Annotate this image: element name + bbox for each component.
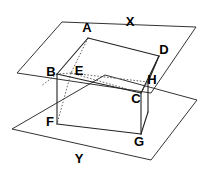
hidden-edge-ef: [57, 73, 71, 124]
edge-b-c: [57, 74, 141, 93]
figure-canvas: A B C D E F G H X Y: [0, 0, 209, 171]
hidden-edge-eb: [57, 73, 71, 74]
vertex-label-b: B: [46, 64, 55, 79]
vertex-label-d: D: [159, 42, 168, 57]
edge-a-b: [57, 38, 88, 74]
vertex-label-f: F: [46, 114, 54, 129]
edge-g-h: [141, 112, 148, 134]
vertex-label-e: E: [75, 63, 84, 78]
vertex-label-h: H: [147, 72, 156, 87]
vertex-label-g: G: [134, 134, 144, 149]
plane-label-x: X: [126, 14, 135, 29]
edge-f-g: [57, 124, 141, 134]
vertex-label-c: C: [131, 91, 141, 106]
plane-label-y: Y: [75, 151, 84, 166]
plane-y: [12, 75, 197, 160]
plane-x: [17, 22, 196, 93]
geometry-figure: A B C D E F G H X Y: [0, 0, 209, 171]
edge-a-d: [88, 38, 159, 56]
vertex-label-a: A: [82, 20, 92, 35]
